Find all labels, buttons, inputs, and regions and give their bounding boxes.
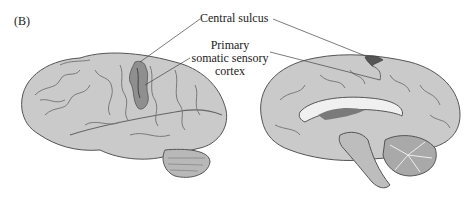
lateral-brain <box>22 53 227 177</box>
brain-illustration <box>0 0 476 215</box>
